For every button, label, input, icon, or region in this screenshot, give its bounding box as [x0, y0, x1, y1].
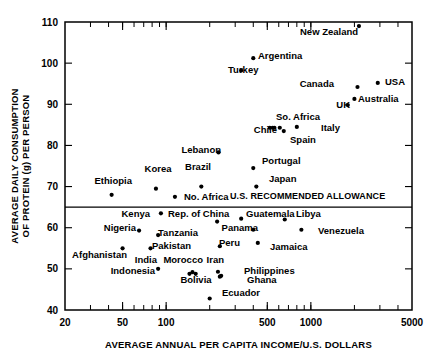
- data-point: [251, 56, 255, 60]
- data-point: [156, 267, 160, 271]
- point-label: Australia: [358, 93, 399, 104]
- y-tick-label: 110: [42, 17, 59, 28]
- point-label: Venezuela: [318, 225, 365, 236]
- data-point: [355, 85, 359, 89]
- point-label: No. Africa: [184, 191, 229, 202]
- y-tick-label: 40: [47, 305, 59, 316]
- y-tick-label: 70: [47, 181, 59, 192]
- data-point: [376, 81, 380, 85]
- data-point: [239, 217, 243, 221]
- y-tick-label: 50: [47, 263, 59, 274]
- y-axis-title-line2: OF PROTEIN (g) PER PERSON: [20, 95, 31, 238]
- point-label: India: [135, 254, 158, 265]
- y-tick-label: 90: [47, 99, 59, 110]
- data-point: [137, 228, 141, 232]
- data-point: [199, 184, 203, 188]
- x-tick-label: 1000: [300, 317, 323, 328]
- x-tick-label: 100: [158, 317, 175, 328]
- data-point: [215, 219, 219, 223]
- data-point: [251, 166, 255, 170]
- data-point: [173, 195, 177, 199]
- data-point: [159, 211, 163, 215]
- axis-titles: AVERAGE ANNUAL PER CAPITA INCOME/U.S. DO…: [9, 88, 372, 350]
- point-label: Portugal: [262, 155, 301, 166]
- y-tick-label: 100: [41, 58, 58, 69]
- point-label: Jamaica: [270, 241, 308, 252]
- point-label: Iran: [207, 254, 225, 265]
- protein-vs-income-scatter-chart: 205010050010005000 405060708090100110 U.…: [0, 0, 439, 362]
- data-point: [254, 184, 258, 188]
- point-label: Peru: [219, 237, 240, 248]
- point-label: Morocco: [163, 254, 203, 265]
- point-label: Ghana: [247, 274, 277, 285]
- x-tick-label: 5000: [401, 317, 424, 328]
- point-label: Panama: [222, 222, 259, 233]
- point-label: Argentina: [258, 50, 303, 61]
- point-label: Canada: [300, 78, 335, 89]
- point-label: Kenya: [121, 208, 150, 219]
- point-label: Indonesia: [111, 265, 156, 276]
- point-label: USA: [385, 76, 405, 87]
- data-point: [299, 228, 303, 232]
- data-point: [278, 126, 282, 130]
- y-tick-label: 60: [47, 222, 59, 233]
- point-label: Turkey: [228, 64, 259, 75]
- point-label: Brazil: [185, 161, 211, 172]
- point-label: UK: [336, 99, 350, 110]
- point-label: New Zealand: [300, 26, 358, 37]
- point-label: Chile: [254, 124, 277, 135]
- y-tick-label: 80: [47, 140, 59, 151]
- data-point: [282, 129, 286, 133]
- point-label: Spain: [290, 134, 316, 145]
- data-point: [216, 270, 220, 274]
- x-tick-label: 50: [117, 317, 129, 328]
- data-point: [110, 193, 114, 197]
- us-recommended-allowance-line: U.S. RECOMMENDED ALLOWANCE: [65, 191, 412, 207]
- data-point: [154, 187, 158, 191]
- point-label: Italy: [321, 122, 341, 133]
- point-label: Tanzania: [158, 227, 199, 238]
- data-point: [218, 275, 222, 279]
- chart-svg: 205010050010005000 405060708090100110 U.…: [0, 0, 439, 362]
- point-label: Afghanistan: [72, 249, 127, 260]
- point-label: Libya: [296, 208, 322, 219]
- data-point: [352, 97, 356, 101]
- data-point: [295, 125, 299, 129]
- y-axis-title-line1: AVERAGE DAILY CONSUMPTION: [9, 88, 20, 243]
- y-axis-ticks: 405060708090100110: [41, 17, 412, 316]
- point-label: Pakistan: [152, 240, 191, 251]
- data-point: [208, 296, 212, 300]
- x-axis-title: AVERAGE ANNUAL PER CAPITA INCOME/U.S. DO…: [105, 339, 372, 350]
- point-label: Lebanon: [181, 144, 221, 155]
- point-label: Guatemala: [246, 208, 295, 219]
- point-label: Ecuador: [222, 287, 260, 298]
- data-point: [256, 241, 260, 245]
- x-tick-label: 500: [259, 317, 276, 328]
- point-label: Ethiopia: [95, 175, 133, 186]
- point-label: Korea: [145, 163, 173, 174]
- x-tick-label: 20: [59, 317, 71, 328]
- point-label: Japan: [269, 173, 297, 184]
- us-recommended-allowance-label: U.S. RECOMMENDED ALLOWANCE: [230, 191, 385, 201]
- point-label: Bolivia: [180, 274, 212, 285]
- point-label: So. Africa: [276, 111, 321, 122]
- point-label: Nigeria: [104, 222, 137, 233]
- data-point-labels: New ZealandArgentinaTurkeyUSACanadaAustr…: [72, 26, 405, 298]
- point-label: Rep. of China: [168, 208, 230, 219]
